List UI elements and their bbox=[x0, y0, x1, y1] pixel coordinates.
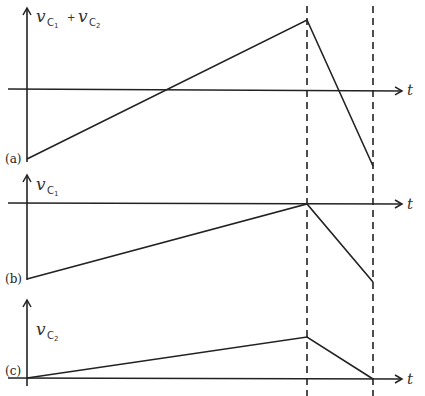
x-label-c: t bbox=[407, 370, 414, 388]
y-label-c: v bbox=[36, 319, 46, 339]
panel-c: v C2 t (c) bbox=[5, 300, 414, 388]
y-label-a-2: v bbox=[78, 6, 88, 26]
panel-a: v C1 + v C2 t (a) bbox=[5, 6, 414, 166]
waveform-b bbox=[27, 204, 373, 282]
x-label-a: t bbox=[407, 81, 414, 99]
plus-sign: + bbox=[67, 12, 75, 23]
panel-tag-b: (b) bbox=[5, 272, 22, 286]
panel-tag-a: (a) bbox=[5, 152, 22, 166]
waveform-c bbox=[27, 337, 373, 379]
waveform-diagram: v C1 + v C2 t (a) v C1 t (b) v C2 t (c) bbox=[0, 0, 425, 396]
x-label-b: t bbox=[407, 195, 414, 213]
x-axis-a bbox=[8, 89, 402, 91]
y-label-c-sub: C2 bbox=[47, 330, 58, 343]
y-label-a: v bbox=[36, 6, 46, 26]
y-label-b: v bbox=[36, 174, 46, 194]
y-label-a-sub1: C1 bbox=[47, 17, 58, 30]
x-axis-b bbox=[8, 203, 402, 204]
dashed-guide-lines bbox=[307, 6, 373, 396]
y-label-b-sub: C1 bbox=[47, 185, 58, 198]
waveform-a bbox=[27, 20, 373, 166]
panel-tag-c: (c) bbox=[5, 364, 21, 378]
x-axis-c bbox=[8, 378, 402, 379]
y-label-a-sub2: C2 bbox=[89, 17, 100, 30]
panel-b: v C1 t (b) bbox=[5, 174, 414, 286]
